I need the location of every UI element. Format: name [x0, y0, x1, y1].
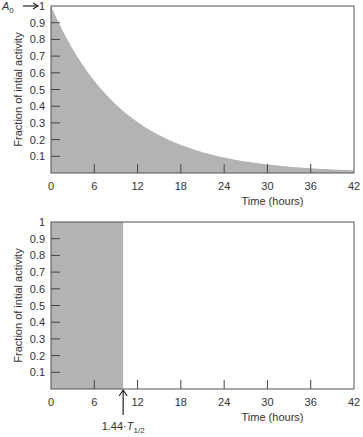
- x-tick-label: 30: [261, 180, 273, 192]
- x-tick-label: 6: [91, 396, 97, 408]
- y-axis-title: Fraction of intial activity: [12, 32, 24, 147]
- y-tick-label: 0.6: [30, 67, 45, 79]
- y-tick-label: 1: [39, 0, 45, 12]
- y-tick-label: 0.1: [30, 366, 45, 378]
- x-tick-label: 24: [218, 180, 230, 192]
- a0-label: A0: [1, 0, 14, 15]
- x-tick-label: 36: [305, 396, 317, 408]
- x-axis-title: Time (hours): [242, 195, 304, 207]
- y-tick-label: 0.2: [30, 350, 45, 362]
- y-tick-label: 0.5: [30, 84, 45, 96]
- decay-area: [51, 6, 354, 173]
- top-chart: 0.10.20.30.40.50.60.70.80.91061218243036…: [1, 0, 360, 207]
- x-tick-label: 12: [131, 396, 143, 408]
- half-life-label: 1.44·T1/2: [102, 420, 145, 435]
- y-tick-label: 0.3: [30, 117, 45, 129]
- y-tick-label: 0.6: [30, 283, 45, 295]
- x-tick-label: 0: [48, 180, 54, 192]
- x-tick-label: 18: [175, 396, 187, 408]
- y-tick-label: 1: [39, 216, 45, 228]
- x-tick-label: 0: [48, 396, 54, 408]
- x-tick-label: 24: [218, 396, 230, 408]
- x-axis-title: Time (hours): [242, 411, 304, 423]
- bottom-chart: 0.10.20.30.40.50.60.70.80.91061218243036…: [12, 216, 360, 435]
- y-tick-label: 0.1: [30, 150, 45, 162]
- y-tick-label: 0.7: [30, 266, 45, 278]
- equivalent-rect-area: [51, 222, 123, 389]
- x-tick-label: 12: [131, 180, 143, 192]
- x-tick-label: 6: [91, 180, 97, 192]
- y-tick-label: 0.2: [30, 134, 45, 146]
- y-tick-label: 0.8: [30, 33, 45, 45]
- y-tick-label: 0.8: [30, 249, 45, 261]
- x-tick-label: 42: [348, 396, 360, 408]
- y-tick-label: 0.5: [30, 300, 45, 312]
- y-tick-label: 0.9: [30, 233, 45, 245]
- x-tick-label: 30: [261, 396, 273, 408]
- y-tick-label: 0.3: [30, 333, 45, 345]
- y-tick-label: 0.4: [30, 316, 45, 328]
- x-tick-label: 42: [348, 180, 360, 192]
- y-tick-label: 0.4: [30, 100, 45, 112]
- y-axis-title: Fraction of intial activity: [12, 248, 24, 363]
- chart-figure: 0.10.20.30.40.50.60.70.80.91061218243036…: [0, 0, 363, 437]
- x-tick-label: 36: [305, 180, 317, 192]
- y-tick-label: 0.9: [30, 17, 45, 29]
- x-tick-label: 18: [175, 180, 187, 192]
- y-tick-label: 0.7: [30, 50, 45, 62]
